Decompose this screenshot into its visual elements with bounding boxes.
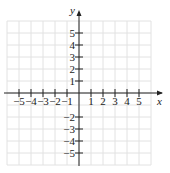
y-tick-label: 2 (70, 63, 76, 75)
y-tick-label: −3 (63, 123, 75, 135)
x-tick-label: −3 (37, 95, 49, 107)
x-tick-label: −1 (61, 95, 73, 107)
x-tick-label: 5 (136, 95, 142, 107)
y-tick-label: −5 (63, 147, 75, 159)
x-tick-label: 3 (112, 95, 118, 107)
y-tick-label: −4 (63, 135, 75, 147)
x-tick-label: 4 (124, 95, 130, 107)
x-tick-label: −4 (25, 95, 37, 107)
y-tick-label: 1 (70, 75, 76, 87)
y-axis-arrow-icon (77, 10, 82, 16)
y-axis-label: y (69, 4, 75, 16)
x-tick-label: 1 (88, 95, 94, 107)
x-axis-label: x (156, 95, 162, 107)
coordinate-plane: −5−4−3−2−11234554321−2−3−4−5 x y (0, 0, 170, 173)
x-tick-label: −5 (13, 95, 25, 107)
y-tick-label: 4 (70, 39, 76, 51)
x-tick-label: 2 (100, 95, 106, 107)
y-tick-label: −2 (63, 111, 75, 123)
y-tick-label: 5 (70, 27, 76, 39)
x-tick-label: −2 (49, 95, 61, 107)
y-tick-label: 3 (70, 51, 76, 63)
